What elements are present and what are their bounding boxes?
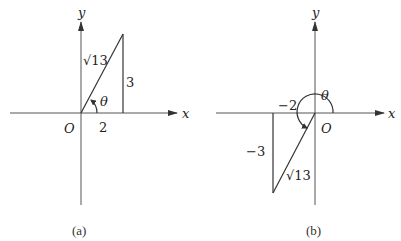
angle-label: θ bbox=[321, 88, 329, 103]
angle-arc bbox=[91, 100, 97, 113]
opposite-label: −3 bbox=[246, 144, 265, 159]
hypotenuse-label: √13 bbox=[83, 53, 108, 68]
origin-label: O bbox=[64, 121, 75, 136]
panel-a: y x O 2 3 θ √13 (a) bbox=[10, 5, 190, 238]
angle-label: θ bbox=[100, 94, 108, 109]
opposite-label: 3 bbox=[126, 75, 134, 90]
caption-b: (b) bbox=[306, 223, 321, 238]
x-axis-label: x bbox=[388, 106, 396, 121]
panel-b: y x O −2 −3 θ √13 (b) bbox=[216, 5, 396, 238]
hypotenuse-label: √13 bbox=[286, 168, 311, 183]
y-axis-label: y bbox=[77, 5, 86, 20]
y-axis-label: y bbox=[311, 5, 320, 20]
caption-a: (a) bbox=[72, 223, 86, 238]
origin-label: O bbox=[321, 121, 332, 136]
x-axis-label: x bbox=[182, 106, 190, 121]
figure: y x O 2 3 θ √13 (a) y x O −2 −3 θ √13 (b… bbox=[0, 0, 401, 241]
adjacent-label: 2 bbox=[99, 120, 107, 135]
adjacent-label: −2 bbox=[278, 98, 297, 113]
